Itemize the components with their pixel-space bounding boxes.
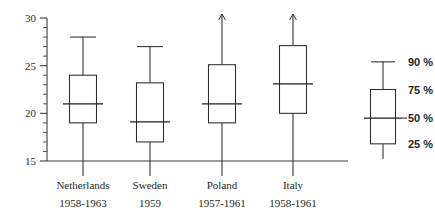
y-tick-label: 15 (25, 155, 37, 167)
category-period: 1958-1961 (269, 197, 317, 209)
category-name: Poland (207, 179, 238, 191)
legend-iqr-box (371, 90, 396, 144)
legend-label-p25: 25 % (408, 138, 433, 150)
boxplot-sweden (130, 47, 170, 176)
boxplot-series (63, 14, 313, 176)
legend-label-p90: 90 % (408, 56, 433, 68)
boxplot-canvas: 15202530 Netherlands1958-1963Sweden1959P… (0, 0, 435, 221)
category-period: 1957-1961 (198, 197, 246, 209)
legend-label-p50: 50 % (408, 112, 433, 124)
category-name: Sweden (133, 179, 168, 191)
y-axis: 15202530 (25, 12, 47, 167)
boxplot-netherlands (63, 37, 103, 176)
category-period: 1959 (139, 197, 162, 209)
boxplot-figure: 15202530 Netherlands1958-1963Sweden1959P… (0, 0, 435, 221)
boxplot-poland (202, 14, 242, 176)
iqr-box (70, 75, 97, 123)
iqr-box (280, 46, 307, 114)
category-period: 1958-1963 (59, 197, 107, 209)
boxplot-italy (273, 14, 313, 176)
category-labels: Netherlands1958-1963Sweden1959Poland1957… (56, 179, 316, 209)
category-name: Netherlands (56, 179, 109, 191)
y-tick-label: 30 (25, 12, 37, 24)
y-tick-label: 25 (25, 60, 37, 72)
category-name: Italy (283, 179, 304, 191)
iqr-box (209, 65, 236, 123)
iqr-box (137, 83, 164, 142)
legend-label-p75: 75 % (408, 84, 433, 96)
percentile-legend: 90 %75 %50 %25 % (364, 56, 433, 159)
y-tick-label: 20 (25, 107, 37, 119)
